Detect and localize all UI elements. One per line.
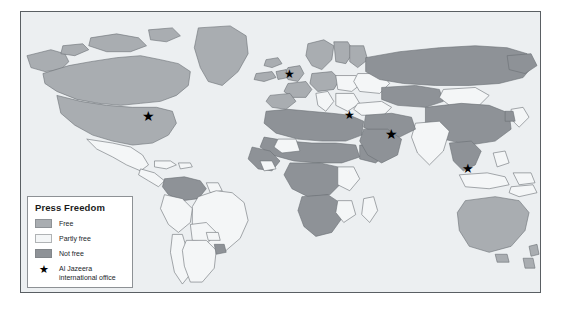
legend-label-al-jazeera: Al Jazeera international office: [59, 265, 116, 282]
legend-label-al-jazeera-line2: international office: [59, 274, 116, 283]
star-icon-levant: ★: [344, 108, 355, 122]
star-icon-doha: ★: [385, 126, 398, 142]
legend-label-partly-free: Partly free: [59, 235, 91, 243]
legend-label-al-jazeera-line1: Al Jazeera: [59, 265, 116, 274]
star-icon: ★: [35, 265, 52, 274]
legend-item-free: Free: [35, 218, 126, 229]
map-legend: Press Freedom Free Partly free Not free …: [27, 196, 133, 288]
legend-swatch-free: [35, 219, 52, 228]
star-icon-kuala-lumpur: ★: [462, 161, 474, 176]
legend-label-not-free: Not free: [59, 250, 84, 258]
legend-item-not-free: Not free: [35, 248, 126, 259]
legend-item-partly-free: Partly free: [35, 233, 126, 244]
legend-title: Press Freedom: [35, 202, 126, 213]
star-icon-london: ★: [284, 67, 295, 81]
legend-swatch-partly-free: [35, 234, 52, 243]
press-freedom-map-figure: .free { fill:#a9adb1; stroke:#6b7075; st…: [0, 0, 561, 314]
legend-label-free: Free: [59, 220, 73, 228]
star-icon-washington: ★: [142, 108, 155, 124]
legend-swatch-not-free: [35, 249, 52, 258]
legend-item-al-jazeera-office: ★ Al Jazeera international office: [35, 265, 126, 282]
